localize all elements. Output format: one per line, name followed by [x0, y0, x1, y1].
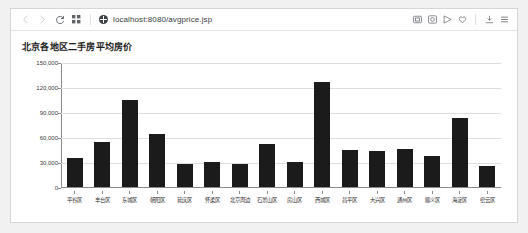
bar[interactable] [369, 151, 385, 187]
bar[interactable] [122, 100, 138, 187]
x-axis-label-slot: 房山区 [281, 191, 309, 204]
bar-slot [281, 63, 309, 187]
y-axis-tick-mark [58, 188, 61, 189]
bar[interactable] [314, 82, 330, 187]
globe-icon [99, 15, 108, 24]
x-axis-label-slot: 怀柔区 [199, 191, 227, 204]
x-axis-tick-mark [239, 191, 240, 194]
x-axis-label-slot: 平谷区 [61, 191, 89, 204]
toolbar-divider [90, 14, 91, 25]
x-axis-label-slot: 延庆区 [171, 191, 199, 204]
bar[interactable] [287, 162, 303, 187]
x-axis-tick-mark [129, 191, 130, 194]
bar[interactable] [397, 149, 413, 187]
x-axis-tick-mark [184, 191, 185, 194]
x-axis-tick-label: 顺义区 [419, 196, 447, 204]
x-axis-tick-mark [322, 191, 323, 194]
bar-slot [144, 63, 172, 187]
x-axis-line [61, 187, 501, 188]
x-axis-tick-mark [212, 191, 213, 194]
favorite-heart-icon[interactable] [455, 12, 469, 28]
x-axis-tick-label: 大兴区 [364, 196, 392, 204]
bar-slot [89, 63, 117, 187]
x-axis-label-slot: 顺义区 [419, 191, 447, 204]
collections-icon[interactable] [425, 12, 439, 28]
send-icon[interactable] [440, 12, 454, 28]
bar-slot [226, 63, 254, 187]
bar[interactable] [177, 164, 193, 187]
bar-series [61, 63, 501, 187]
x-axis-tick-mark [267, 191, 268, 194]
x-axis-label-slot: 昌平区 [336, 191, 364, 204]
bar-slot [254, 63, 282, 187]
x-axis-tick-mark [294, 191, 295, 194]
bar-slot [61, 63, 89, 187]
x-axis-tick-mark [487, 191, 488, 194]
navigation-controls [17, 11, 96, 28]
y-axis-tick-label: 120,000 [36, 85, 58, 91]
apps-grid-icon[interactable] [68, 11, 85, 28]
x-axis-tick-label: 东城区 [116, 196, 144, 204]
x-axis-label-slot: 东城区 [116, 191, 144, 204]
bar[interactable] [259, 144, 275, 187]
x-axis-tick-mark [102, 191, 103, 194]
x-axis-label-slot: 石景山区 [254, 191, 282, 204]
page-title: 北京各地区二手房平均房价 [22, 40, 132, 53]
bar[interactable] [342, 150, 358, 187]
x-axis-tick-mark [432, 191, 433, 194]
x-axis-tick-label: 密云区 [474, 196, 502, 204]
bar-slot [309, 63, 337, 187]
browser-toolbar: localhost:8080/avgprice.jsp [11, 9, 517, 31]
x-axis-label-slot: 丰台区 [89, 191, 117, 204]
bar[interactable] [94, 142, 110, 187]
bar-slot [391, 63, 419, 187]
x-axis-tick-label: 通州区 [391, 196, 419, 204]
y-axis-tick-label: 60,000 [40, 135, 58, 141]
y-axis-tick-label: 90,000 [40, 110, 58, 116]
y-axis-tick-label: 150,000 [36, 60, 58, 66]
x-axis-labels: 平谷区丰台区东城区朝阳区延庆区怀柔区北京周边石景山区房山区西城区昌平区大兴区通州… [61, 191, 501, 204]
back-icon[interactable] [17, 11, 34, 28]
page-content: 北京各地区二手房平均房价 030,00060,00090,000120,0001… [11, 31, 517, 222]
bar[interactable] [204, 162, 220, 187]
bar[interactable] [149, 134, 165, 187]
x-axis-label-slot: 通州区 [391, 191, 419, 204]
bar-slot [116, 63, 144, 187]
bar-slot [446, 63, 474, 187]
x-axis-tick-mark [377, 191, 378, 194]
downloads-icon[interactable] [482, 12, 496, 28]
bar-slot [336, 63, 364, 187]
url-text: localhost:8080/avgprice.jsp [113, 15, 212, 24]
bar-slot [171, 63, 199, 187]
browser-window: localhost:8080/avgprice.jsp [10, 8, 518, 223]
x-axis-tick-mark [157, 191, 158, 194]
bar-slot [364, 63, 392, 187]
bar-slot [474, 63, 502, 187]
bar[interactable] [424, 156, 440, 187]
x-axis-label-slot: 密云区 [474, 191, 502, 204]
y-axis-tick-label: 30,000 [40, 160, 58, 166]
x-axis-tick-mark [349, 191, 350, 194]
x-axis-label-slot: 西城区 [309, 191, 337, 204]
x-axis-tick-mark [74, 191, 75, 194]
x-axis-label-slot: 海淀区 [446, 191, 474, 204]
screenshot-icon[interactable] [410, 12, 424, 28]
toolbar-right-icons [410, 12, 511, 28]
bar[interactable] [67, 158, 83, 187]
bar-slot [419, 63, 447, 187]
menu-icon[interactable] [497, 12, 511, 28]
chart-plot-area: 030,00060,00090,000120,000150,000 [61, 63, 501, 188]
x-axis-tick-label: 丰台区 [89, 196, 117, 204]
x-axis-tick-label: 平谷区 [61, 196, 89, 204]
reload-icon[interactable] [51, 11, 68, 28]
bar[interactable] [452, 118, 468, 187]
forward-icon[interactable] [34, 11, 51, 28]
address-bar[interactable]: localhost:8080/avgprice.jsp [96, 12, 410, 28]
x-axis-label-slot: 朝阳区 [144, 191, 172, 204]
x-axis-label-slot: 大兴区 [364, 191, 392, 204]
x-axis-label-slot: 北京周边 [226, 191, 254, 204]
x-axis-tick-label: 西城区 [309, 196, 337, 204]
bar[interactable] [232, 164, 248, 187]
bar[interactable] [479, 166, 495, 187]
x-axis-tick-mark [459, 191, 460, 194]
